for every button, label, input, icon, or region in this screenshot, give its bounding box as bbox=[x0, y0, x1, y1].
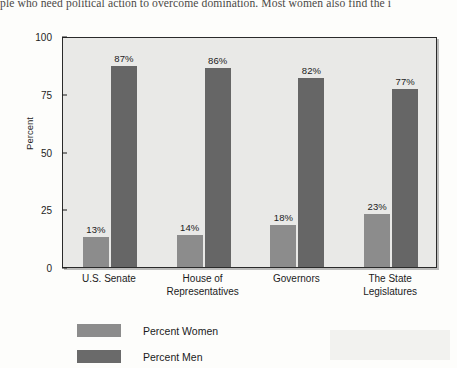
y-axis-tick-100: 100 bbox=[14, 32, 58, 43]
x-axis-label: Governors bbox=[250, 273, 344, 286]
x-axis-label-line: House of bbox=[156, 273, 250, 286]
bar[interactable]: 86% bbox=[205, 68, 231, 267]
bar[interactable]: 13% bbox=[83, 237, 109, 267]
bar[interactable]: 82% bbox=[298, 78, 324, 267]
x-axis-label: The StateLegislatures bbox=[343, 273, 437, 298]
x-axis-label-line: U.S. Senate bbox=[62, 273, 156, 286]
y-axis-tick-labels: 0255075100 bbox=[14, 37, 58, 268]
y-axis-tick-25: 25 bbox=[14, 205, 58, 216]
bar[interactable]: 14% bbox=[177, 235, 203, 267]
bar[interactable]: 18% bbox=[270, 225, 296, 267]
legend-item[interactable]: Percent Women bbox=[77, 320, 337, 341]
bar-value-label: 87% bbox=[114, 53, 133, 64]
bar-value-label: 77% bbox=[396, 76, 415, 87]
x-axis-label-line: Legislatures bbox=[343, 286, 437, 299]
bar[interactable]: 23% bbox=[364, 214, 390, 267]
bar[interactable]: 87% bbox=[111, 66, 137, 267]
bar-value-label: 86% bbox=[208, 55, 227, 66]
bar-group: 13%87% bbox=[63, 38, 157, 267]
legend-swatch-men bbox=[77, 350, 121, 363]
y-axis-tickmark-50 bbox=[62, 152, 67, 153]
y-axis-tickmark-0 bbox=[62, 268, 67, 269]
y-axis-tick-75: 75 bbox=[14, 89, 58, 100]
scan-artifact bbox=[330, 330, 450, 360]
legend-label: Percent Women bbox=[143, 325, 218, 337]
x-axis-label-line: The State bbox=[343, 273, 437, 286]
bar-value-label: 18% bbox=[274, 212, 293, 223]
x-axis-label: U.S. Senate bbox=[62, 273, 156, 286]
bar-chart-figure: Percent 0255075100 13%87%14%86%18%82%23%… bbox=[0, 0, 457, 368]
chart-legend: Percent WomenPercent Men bbox=[77, 320, 337, 368]
plot-area: 13%87%14%86%18%82%23%77% bbox=[62, 37, 437, 268]
x-axis-label: House ofRepresentatives bbox=[156, 273, 250, 298]
legend-label: Percent Men bbox=[143, 351, 203, 363]
bars-layer: 13%87%14%86%18%82%23%77% bbox=[63, 38, 436, 267]
bar-value-label: 23% bbox=[368, 201, 387, 212]
x-axis-label-line: Representatives bbox=[156, 286, 250, 299]
bar-group: 14%86% bbox=[157, 38, 251, 267]
x-axis-label-line: Governors bbox=[250, 273, 344, 286]
y-axis-tickmark-75 bbox=[62, 94, 67, 95]
y-axis-tickmark-25 bbox=[62, 210, 67, 211]
y-axis-tick-50: 50 bbox=[14, 147, 58, 158]
y-axis-tick-0: 0 bbox=[14, 263, 58, 274]
bar[interactable]: 77% bbox=[392, 89, 418, 267]
bar-group: 18%82% bbox=[251, 38, 345, 267]
bar-value-label: 13% bbox=[86, 224, 105, 235]
x-axis-category-labels: U.S. SenateHouse ofRepresentativesGovern… bbox=[62, 273, 437, 307]
legend-item[interactable]: Percent Men bbox=[77, 346, 337, 367]
legend-swatch-women bbox=[77, 324, 121, 337]
bar-value-label: 14% bbox=[180, 222, 199, 233]
bar-value-label: 82% bbox=[302, 65, 321, 76]
bar-group: 23%77% bbox=[344, 38, 438, 267]
y-axis-tickmark-100 bbox=[62, 37, 67, 38]
